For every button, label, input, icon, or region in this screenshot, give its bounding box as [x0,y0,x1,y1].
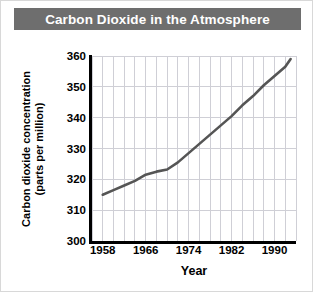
y-axis-tick-label: 350 [67,81,86,93]
chart-title-banner: Carbon Dioxide in the Atmosphere [14,8,301,30]
y-axis-tick-label: 310 [67,204,86,216]
y-axis-tick-label: 300 [67,235,86,247]
y-axis-line [89,55,92,242]
plot-area [92,56,296,241]
x-axis-tick-label: 1974 [176,244,202,256]
chart-figure: Carbon Dioxide in the Atmosphere Carbon … [0,0,313,292]
page-title: Carbon Dioxide in the Atmosphere [45,12,270,27]
x-axis-tick-label: 1990 [262,244,288,256]
data-line [103,59,291,195]
y-axis-tick-labels: 300310320330340350360 [53,56,89,241]
y-axis-tick-label: 340 [67,112,86,124]
x-axis-tick-label: 1958 [90,244,116,256]
data-line-series [92,56,296,241]
y-axis-title-line-2: (parts per million) [33,71,46,227]
x-axis-tick-label: 1966 [133,244,159,256]
y-axis-tick-label: 360 [67,50,86,62]
x-axis-tick-label: 1982 [219,244,245,256]
y-axis-title-line-1: Carbon dioxide concentration [20,71,33,227]
y-axis-tick-label: 330 [67,143,86,155]
x-axis-title: Year [92,264,296,278]
x-axis-tick-labels: 19581966197419821990 [92,244,296,260]
y-axis-tick-label: 320 [67,173,86,185]
y-axis-title: Carbon dioxide concentration (parts per … [15,56,51,241]
